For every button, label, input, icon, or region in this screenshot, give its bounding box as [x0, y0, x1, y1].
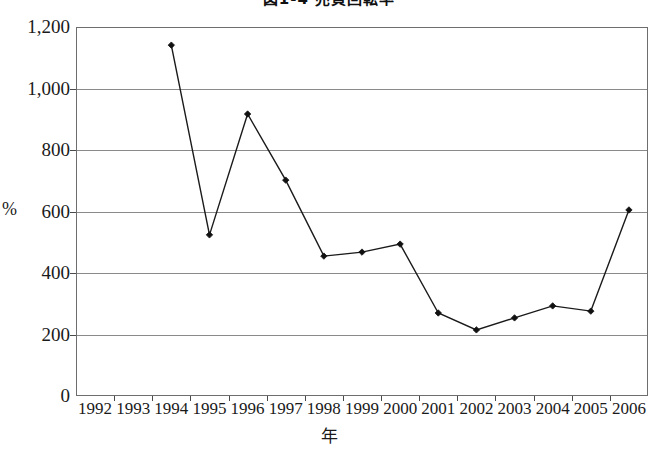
data-point-marker [283, 177, 289, 183]
y-tick-mark [70, 212, 76, 213]
data-point-marker [549, 303, 555, 309]
x-tick-label: 1994 [152, 399, 190, 419]
series-markers [168, 42, 632, 333]
x-tick-label: 2005 [572, 399, 610, 419]
x-tick-label: 2001 [419, 399, 457, 419]
line-chart: 図1-4 売買回転率 % 02004006008001,0001,200 年 1… [0, 0, 658, 456]
x-tick-label: 1998 [305, 399, 343, 419]
x-tick-label: 1996 [229, 399, 267, 419]
data-point-marker [473, 327, 479, 333]
series-line [171, 45, 629, 330]
x-tick-label: 1992 [76, 399, 114, 419]
data-point-marker [244, 111, 250, 117]
y-tick-mark [70, 89, 76, 90]
x-tick-label: 2000 [381, 399, 419, 419]
y-tick-mark [70, 335, 76, 336]
data-point-marker [435, 310, 441, 316]
data-point-marker [206, 232, 212, 238]
x-tick-label: 1995 [190, 399, 228, 419]
data-point-marker [626, 207, 632, 213]
x-tick-label: 2004 [534, 399, 572, 419]
data-point-marker [359, 249, 365, 255]
data-point-marker [321, 253, 327, 259]
y-tick-mark [70, 273, 76, 274]
x-tick-label: 2002 [457, 399, 495, 419]
series-layer [0, 0, 658, 456]
x-axis-title: 年 [0, 422, 658, 447]
data-point-marker [397, 241, 403, 247]
x-tick-label: 1993 [114, 399, 152, 419]
x-tick-label: 2006 [610, 399, 648, 419]
data-point-marker [511, 315, 517, 321]
data-point-marker [168, 42, 174, 48]
x-tick-label: 1999 [343, 399, 381, 419]
x-tick-label: 2003 [495, 399, 533, 419]
y-tick-mark [70, 150, 76, 151]
x-tick-label: 1997 [267, 399, 305, 419]
data-point-marker [588, 308, 594, 314]
